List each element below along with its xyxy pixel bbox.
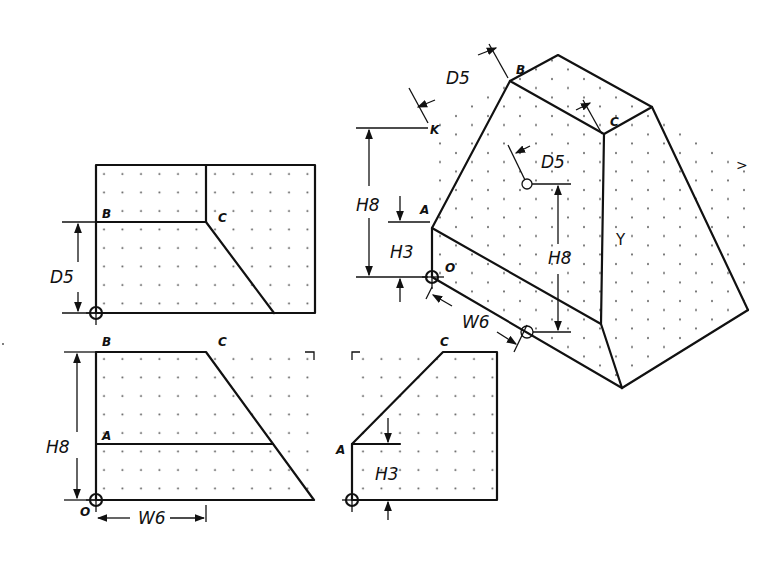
front-width-dimension: W6 (138, 508, 166, 528)
multiview-drawing: D5 B C H8 W6 B C A O (0, 0, 767, 561)
side-height-dimension: H3 (375, 464, 399, 484)
isometric-view: D5 B C K D5 H8 A H3 O H8 (356, 44, 748, 388)
front-view: H8 W6 B C A O (46, 335, 315, 528)
iso-height-left-dimension: H8 (356, 195, 380, 215)
iso-height-right-dimension: H8 (548, 248, 572, 268)
iso-x-axis-label: > (736, 157, 748, 173)
front-view-grid (96, 352, 315, 500)
front-point-o: O (80, 505, 90, 519)
iso-point-a: A (419, 203, 429, 217)
top-point-b: B (102, 207, 111, 221)
iso-y-axis-label: Y (615, 231, 626, 249)
front-point-c: C (218, 335, 227, 349)
top-point-c: C (218, 211, 227, 225)
iso-height-inner-dimension: H3 (390, 242, 414, 262)
iso-point-b: B (516, 63, 525, 77)
iso-width-dimension: W6 (462, 312, 490, 332)
iso-depth-top-dimension: D5 (446, 68, 470, 88)
side-point-a: A (335, 443, 345, 457)
front-height-dimension: H8 (46, 437, 70, 457)
side-point-c: C (440, 335, 449, 349)
iso-depth-mid-dimension: D5 (541, 152, 565, 172)
front-point-b: B (102, 335, 111, 349)
iso-point-o: O (445, 261, 455, 275)
front-point-a: A (101, 429, 111, 443)
side-view: H3 A C (335, 335, 499, 520)
iso-point-c: C (610, 115, 619, 129)
top-depth-dimension: D5 (50, 267, 74, 287)
stray-mark (2, 343, 4, 345)
top-view: D5 B C (50, 165, 315, 325)
